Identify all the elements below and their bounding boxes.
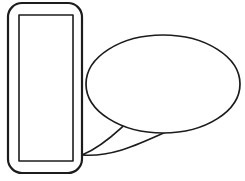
diagram-svg (0, 0, 245, 181)
ellipse-callout-body (86, 35, 240, 133)
rectangle-inner (19, 15, 73, 161)
diagram-canvas (0, 0, 245, 181)
